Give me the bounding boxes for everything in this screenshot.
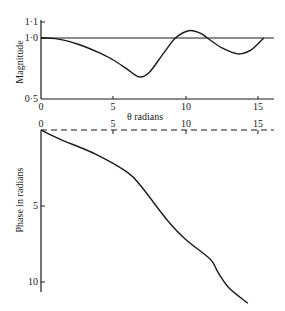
phase-xtick-label: 0 bbox=[39, 118, 44, 129]
mag-xtick-label: 0 bbox=[39, 101, 44, 112]
mag-ytick-label: 1·1 bbox=[25, 16, 38, 27]
phase-xtick-label: 5 bbox=[111, 118, 116, 129]
x-axis-title: θ radians bbox=[127, 111, 163, 122]
magnitude-y-axis-title: Magnitude bbox=[14, 40, 25, 84]
phase-panel: 5 10 0 5 10 15 Phase in radians bbox=[14, 118, 274, 303]
phase-ytick-label: 5 bbox=[33, 200, 38, 211]
phase-xtick-label: 15 bbox=[253, 118, 263, 129]
mag-xtick-label: 5 bbox=[111, 101, 116, 112]
mag-xtick-label: 10 bbox=[181, 101, 191, 112]
phase-y-axis-title: Phase in radians bbox=[14, 167, 25, 232]
magnitude-panel: 1·1 1·0 0·5 0 5 10 15 θ radians Magnitud… bbox=[14, 16, 274, 122]
mag-ytick-label: 1·0 bbox=[25, 32, 38, 43]
mag-xtick-label: 15 bbox=[253, 101, 263, 112]
phase-xtick-label: 10 bbox=[181, 118, 191, 129]
chart-canvas: 1·1 1·0 0·5 0 5 10 15 θ radians Magnitud… bbox=[0, 0, 285, 311]
mag-ytick-label: 0·5 bbox=[25, 93, 38, 104]
magnitude-curve bbox=[41, 31, 264, 78]
phase-curve bbox=[41, 130, 248, 303]
phase-ytick-label: 10 bbox=[28, 276, 38, 287]
